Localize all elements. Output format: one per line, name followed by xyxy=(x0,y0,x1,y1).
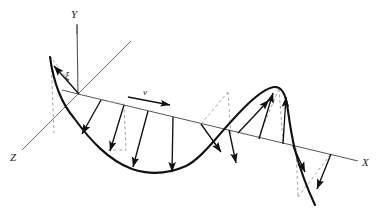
displacement-vector-label: ξ xyxy=(65,71,69,81)
displacement-arrow-5 xyxy=(201,124,221,152)
z-axis-label: Z xyxy=(10,152,16,163)
displacement-arrow-9 xyxy=(283,97,286,144)
velocity-vector-label: v xyxy=(143,88,147,97)
velocity-arrow xyxy=(128,97,170,105)
displacement-arrow-7 xyxy=(238,100,269,133)
z-axis-line xyxy=(22,94,78,150)
displacement-arrow-2 xyxy=(110,105,124,151)
dashed-depth-dip-drop xyxy=(228,92,231,136)
displacement-arrow-10 xyxy=(293,146,305,172)
displacement-arrow-3 xyxy=(133,111,148,167)
x-axis-line xyxy=(78,94,358,161)
displacement-arrow-6 xyxy=(229,130,236,163)
displacement-arrow-11 xyxy=(317,154,331,189)
wave-pulse-curve xyxy=(50,57,315,205)
dashed-depth-peak-drop xyxy=(279,89,283,142)
wave-diagram-canvas xyxy=(0,0,380,217)
x-axis-label: X xyxy=(362,157,369,168)
displacement-arrow-8 xyxy=(259,93,273,139)
construction-lines-group xyxy=(51,57,330,197)
displacement-arrow-1 xyxy=(82,100,101,134)
z-axis-line-far xyxy=(78,41,131,94)
displacement-arrow-4 xyxy=(172,117,173,172)
axis-group xyxy=(22,24,358,161)
dashed-depth-dip-hyp xyxy=(201,92,228,124)
y-axis-label: Y xyxy=(71,9,77,20)
wave-diagram-figure: Y Z X ξ v xyxy=(0,0,380,217)
dashed-depth-left-drop xyxy=(124,104,126,150)
wave-curve-group xyxy=(50,57,315,205)
velocity-arrow-group xyxy=(128,97,170,105)
y-axis-line xyxy=(77,24,78,94)
displacement-arrows-group xyxy=(54,66,331,189)
